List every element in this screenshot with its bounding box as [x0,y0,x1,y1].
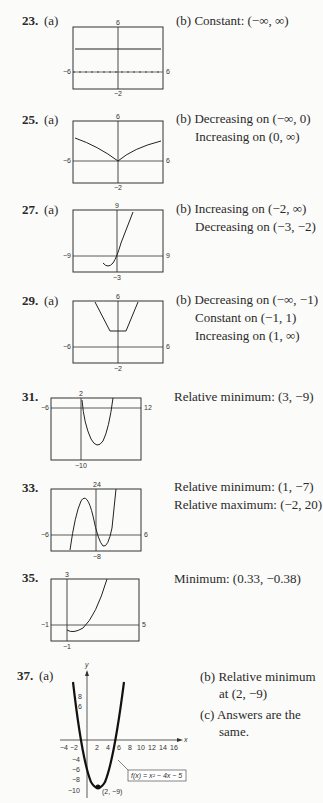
graph-33: 24 −6 6 −8 [51,486,143,556]
svg-text:−1: −1 [41,621,49,628]
graph-25: 6 −6 6 −2 [73,116,165,184]
svg-text:−2: −2 [114,90,122,97]
svg-text:4: 4 [106,744,110,751]
graph-31: 2 −6 12 −10 [51,394,143,464]
svg-text:−6: −6 [41,404,49,411]
graph-35: 3 −1 5 −1 [51,576,143,646]
problem-number: 25. [22,112,38,128]
svg-text:6: 6 [144,531,148,538]
svg-text:24: 24 [93,481,101,488]
problem-number: 37. [17,668,33,684]
svg-text:6: 6 [117,744,121,751]
answer: (b) Constant: (−∞, ∞) [176,12,289,30]
answer: (b) Decreasing on (−∞, −1) Constant on (… [176,291,318,345]
svg-text:−8: −8 [93,553,101,560]
answer: Minimum: (0.33, −0.38) [174,570,301,588]
svg-text:−6: −6 [63,343,71,350]
part-label: (a) [44,112,58,128]
svg-text:−6: −6 [63,68,71,75]
answer: (b) Increasing on (−2, ∞) Decreasing on … [176,200,316,236]
svg-text:−2: −2 [70,744,78,751]
svg-text:−6: −6 [72,766,80,773]
answer: (b) Relative minimum at (2, −9) (c) Answ… [200,668,316,740]
svg-text:9: 9 [166,252,170,259]
svg-text:−6: −6 [63,157,71,164]
svg-text:y: y [84,661,89,669]
svg-text:−2: −2 [114,365,122,372]
part-label: (a) [44,202,58,218]
problem-number: 35. [22,570,38,586]
graph-29: 6 −6 6 −2 [73,296,165,366]
svg-text:12: 12 [148,744,156,751]
svg-text:6: 6 [78,703,82,710]
svg-text:5: 5 [142,621,146,628]
svg-text:6: 6 [116,293,120,300]
svg-text:−10: −10 [75,462,87,469]
problem-number: 29. [22,293,38,309]
svg-text:(2, −9): (2, −9) [102,788,122,796]
svg-text:14: 14 [159,744,167,751]
part-label: (a) [44,13,58,29]
svg-text:−9: −9 [63,252,71,259]
problem-number: 33. [22,480,38,496]
answer: Relative minimum: (3, −9) [174,388,313,406]
problem-number: 31. [22,389,38,405]
svg-text:−4: −4 [72,756,80,763]
svg-text:3: 3 [65,571,69,578]
svg-text:−3: −3 [113,274,121,281]
svg-text:f(x) = x² − 4x − 5: f(x) = x² − 4x − 5 [131,772,182,780]
svg-text:6: 6 [166,343,170,350]
svg-text:6: 6 [166,68,170,75]
answer: Relative minimum: (1, −7) Relative maxim… [174,478,322,514]
svg-text:−2: −2 [114,184,122,191]
part-label: (a) [39,668,53,684]
svg-text:6: 6 [166,157,170,164]
svg-text:8: 8 [78,693,82,700]
svg-text:−10: −10 [68,787,80,794]
graph-37: y x −4 −2 2 4 6 8 10 12 14 16 8 6 −4 −6 … [58,670,188,800]
svg-text:6: 6 [116,113,120,120]
svg-text:16: 16 [170,744,178,751]
answer: (b) Decreasing on (−∞, 0) Increasing on … [176,110,311,146]
svg-text:−8: −8 [72,776,80,783]
svg-text:2: 2 [79,390,83,397]
svg-text:−6: −6 [41,531,49,538]
svg-text:−4: −4 [60,744,68,751]
svg-text:10: 10 [137,744,145,751]
svg-text:9: 9 [115,202,119,209]
part-label: (a) [44,293,58,309]
svg-text:12: 12 [144,404,152,411]
problem-number: 27. [22,202,38,218]
problem-number: 23. [22,13,38,29]
graph-23: 6 −6 6 −2 [73,22,165,90]
svg-text:2: 2 [95,744,99,751]
svg-text:−1: −1 [63,643,71,650]
svg-text:6: 6 [116,19,120,26]
svg-text:8: 8 [128,744,132,751]
svg-text:x: x [183,736,188,743]
graph-27: 9 −9 9 −3 [73,205,165,275]
